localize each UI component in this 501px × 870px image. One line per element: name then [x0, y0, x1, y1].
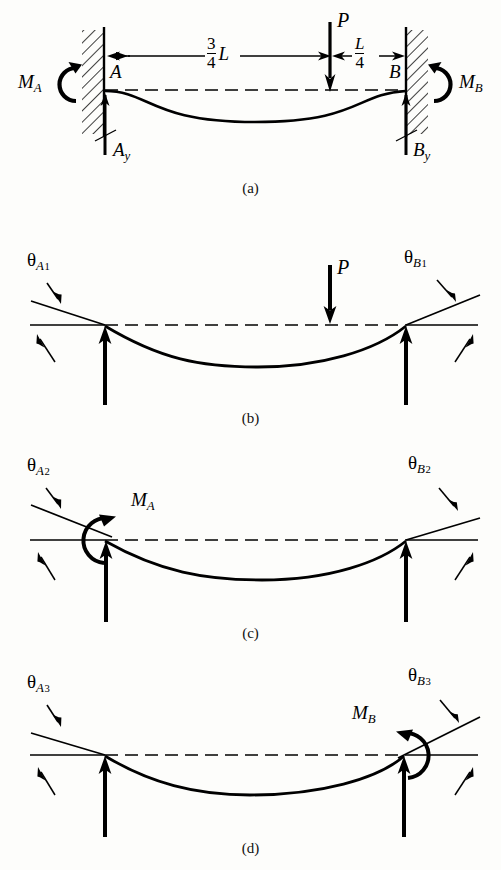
- tangent-line-b: [406, 295, 480, 325]
- leader-arrow-theta-a: [47, 283, 62, 304]
- reaction-arrow-a: [99, 756, 112, 837]
- label-dimension-three-quarter-l: 3 4 L: [205, 35, 231, 72]
- label-support-a: A: [110, 62, 122, 81]
- reaction-arrow-b: [400, 326, 413, 405]
- caption-panel-b: (b): [0, 410, 501, 427]
- moment-arc-mb: [428, 62, 451, 101]
- wall-right: [406, 27, 428, 137]
- deflected-beam-curve: [105, 326, 406, 367]
- panel-b: θA1 θB1 P (b): [0, 225, 501, 440]
- tangent-line-a: [31, 505, 112, 537]
- panel-c: θA2 θB2 MA (c): [0, 440, 501, 655]
- label-theta-a2: θA2: [27, 455, 50, 478]
- tangent-line-b: [406, 518, 480, 540]
- fraction-l-over-four: L 4: [355, 35, 364, 72]
- dimension-quarter-l: [332, 52, 405, 61]
- caption-panel-c: (c): [0, 625, 501, 642]
- angle-indicator-a: [36, 334, 55, 362]
- label-reaction-a: Ay: [113, 140, 130, 163]
- label-theta-b2: θB2: [408, 453, 431, 476]
- wall-left: [82, 27, 104, 137]
- moment-arc-ma: [60, 62, 82, 101]
- label-support-b: B: [389, 62, 401, 81]
- reaction-arrow-b: [398, 756, 411, 837]
- tangent-line-b: [398, 717, 480, 758]
- angle-indicator-a: [37, 552, 55, 580]
- caption-panel-d: (d): [0, 840, 501, 857]
- label-moment-a: MA: [131, 490, 155, 513]
- label-load-p: P: [337, 257, 349, 277]
- label-theta-a1: θA1: [27, 250, 50, 273]
- leader-arrow-theta-b: [439, 488, 458, 511]
- fraction-three-fourths: 3 4: [207, 35, 216, 72]
- panel-a: MA MB A B Ay By P 3 4 L L 4 (a): [0, 0, 501, 215]
- panel-d: θA3 θB3 MB (d): [0, 655, 501, 870]
- reaction-arrow-a: [99, 326, 112, 405]
- deflected-beam-curve: [105, 91, 406, 122]
- reaction-arrow-a: [100, 541, 113, 622]
- tangent-line-a: [31, 301, 105, 325]
- reaction-arrow-b: [400, 541, 413, 622]
- label-theta-b3: θB3: [408, 665, 431, 688]
- angle-indicator-b: [455, 552, 474, 580]
- angle-indicator-b: [455, 334, 474, 362]
- label-load-p: P: [337, 10, 349, 30]
- angle-indicator-a: [37, 767, 55, 795]
- label-theta-a3: θA3: [27, 672, 50, 695]
- leader-arrow-theta-b: [440, 700, 459, 723]
- load-arrow-p: [324, 265, 337, 324]
- deflected-beam-curve: [105, 541, 406, 580]
- leader-arrow-theta-a: [46, 488, 61, 509]
- label-moment-a: MA: [18, 72, 42, 95]
- angle-indicator-b: [455, 767, 474, 795]
- label-reaction-b: By: [413, 140, 430, 163]
- label-moment-b: MB: [459, 72, 483, 95]
- label-moment-b: MB: [352, 703, 376, 726]
- dimension-variable-l: L: [219, 43, 230, 65]
- tangent-line-a: [31, 733, 105, 755]
- label-theta-b1: θB1: [404, 247, 427, 270]
- leader-arrow-theta-a: [47, 705, 61, 727]
- label-dimension-quarter-l: L 4: [353, 35, 366, 72]
- deflected-beam-curve: [105, 756, 404, 795]
- leader-arrow-theta-b: [437, 280, 456, 302]
- caption-panel-a: (a): [0, 180, 501, 197]
